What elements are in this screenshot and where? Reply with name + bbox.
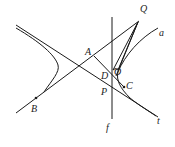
label-P: P [100,86,107,97]
label-t: t [157,115,160,126]
curve-left-branch [16,28,58,92]
segment-QD [113,22,138,70]
geometry-diagram: Q a A D O P C B f t [0,0,175,147]
label-a: a [159,27,164,38]
label-O: O [114,66,121,77]
label-Q: Q [140,3,148,14]
label-C: C [126,80,133,91]
label-D: D [100,70,109,81]
label-f: f [106,122,110,133]
point-B [35,97,38,100]
curve-a [118,28,159,116]
label-B: B [31,103,37,114]
point-C [123,86,126,89]
label-A: A [84,46,92,57]
